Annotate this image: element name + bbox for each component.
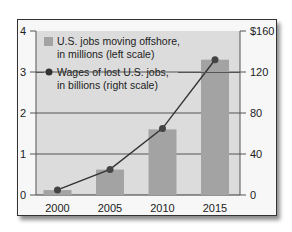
line-point: [159, 125, 166, 132]
x-tick-label: 2010: [150, 202, 174, 214]
x-tick-label: 2015: [203, 202, 227, 214]
right-tick-label: 80: [250, 107, 262, 119]
legend-line-label-2: in billions (right scale): [57, 79, 158, 91]
x-tick-label: 2000: [45, 202, 69, 214]
line-point: [54, 186, 61, 193]
line-point: [212, 56, 219, 63]
left-tick-label: 4: [20, 25, 26, 37]
legend-bar-label-2: in millions (left scale): [57, 48, 154, 60]
left-axis: 01234: [20, 25, 36, 201]
right-axis: 04080120$160: [240, 25, 274, 201]
chart: 01234 04080120$160 2000200520102015 U.S.…: [0, 0, 292, 232]
line-point: [107, 166, 114, 173]
right-tick-label: $160: [250, 25, 274, 37]
bar-2010: [149, 129, 177, 195]
left-tick-label: 3: [20, 66, 26, 78]
right-tick-label: 40: [250, 148, 262, 160]
right-tick-label: 0: [250, 189, 256, 201]
legend-line-marker: [46, 69, 53, 76]
legend-bar-label-1: U.S. jobs moving offshore,: [57, 35, 180, 47]
x-axis: 2000200520102015: [45, 202, 227, 214]
bar-2015: [201, 60, 229, 195]
right-tick-label: 120: [250, 66, 268, 78]
left-tick-label: 2: [20, 107, 26, 119]
x-tick-label: 2005: [98, 202, 122, 214]
left-tick-label: 1: [20, 148, 26, 160]
legend-bar-swatch: [44, 37, 53, 46]
left-tick-label: 0: [20, 189, 26, 201]
legend-line-label-1: Wages of lost U.S. jobs,: [57, 66, 169, 78]
